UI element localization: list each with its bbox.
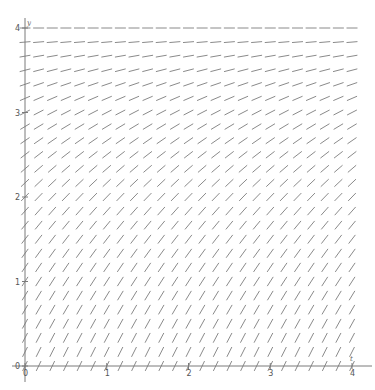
slope-segment [335,249,341,258]
slope-segment [34,96,44,100]
slope-segment [184,138,193,144]
slope-segment [61,83,71,87]
slope-segment [184,165,192,172]
slope-segment [101,69,112,72]
slope-segment [75,110,85,115]
slope-segment [117,263,123,272]
slope-segment [212,207,219,215]
slope-segment [131,249,137,258]
slope-segment [320,83,330,87]
slope-segment [348,179,356,187]
slope-segment [62,193,70,201]
slope-segment [104,291,110,300]
slope-segment [131,333,136,343]
slope-segment [104,263,110,272]
slope-segment [76,207,83,215]
slope-segment [306,69,317,72]
slope-segment [76,263,82,272]
slope-segment [200,333,205,343]
slope-segment [239,151,248,158]
slope-segment [349,235,356,244]
slope-segment [91,347,96,357]
slope-segment [77,305,83,315]
slope-segment [156,83,166,87]
slope-segment [172,291,178,300]
slope-segment [172,277,178,286]
slope-segment [198,193,206,201]
slope-segment [333,69,344,72]
slope-segment [91,333,96,343]
slope-segment [213,319,218,329]
slope-segment [349,263,355,272]
slope-segment [36,347,41,357]
slope-segment [102,110,112,115]
slope-segment [130,151,139,158]
slope-segment [157,124,166,130]
slope-segment [240,319,245,329]
slope-segment [142,83,152,87]
slope-segment [226,277,232,286]
slope-segment [281,347,286,357]
slope-segment [254,347,259,357]
slope-segment [267,291,273,300]
slope-segment [281,291,287,300]
x-tick-label: 1 [105,369,110,378]
slope-segment [104,305,110,315]
slope-segment [143,96,153,100]
slope-segment [224,96,234,100]
slope-segment [171,221,178,229]
slope-segment [115,69,126,72]
slope-segment [48,138,57,144]
slope-segment [103,165,111,172]
slope-segment [143,138,152,144]
slope-segment [89,193,97,201]
slope-segment [170,96,180,100]
slope-segment [171,151,180,158]
slope-segment [226,221,233,229]
slope-segment [103,207,110,215]
slope-segment [183,55,194,57]
slope-segment [199,221,206,229]
slope-segment [336,305,342,315]
slope-segment [199,319,204,329]
slope-segment [226,235,233,244]
slope-segment [158,305,164,315]
slope-segment [253,235,260,244]
slope-segment [321,207,328,215]
slope-segment [184,151,193,158]
slope-segment [199,305,205,315]
slope-segment [34,124,43,130]
slope-segment [227,319,232,329]
slope-segment [172,319,177,329]
slope-segment [36,277,42,286]
slope-segment [238,96,248,100]
slope-segment [349,305,355,315]
slope-segment [62,207,69,215]
slope-segment [211,151,220,158]
slope-segment [198,138,207,144]
slope-segment [186,333,191,343]
slope-segment [251,55,262,57]
slope-segment [267,277,273,286]
slope-segment [183,69,194,72]
slope-segment [157,138,166,144]
slope-segment [307,179,315,187]
slope-segment [278,42,289,43]
slope-segment [322,333,327,343]
slope-segment [118,333,123,343]
slope-segment [63,333,68,343]
slope-segment [131,291,137,300]
slope-segment [186,347,191,357]
slope-segment [156,110,166,115]
slope-segment [210,69,221,72]
slope-segment [210,55,221,57]
slope-segment [118,305,124,315]
slope-segment [197,69,208,72]
slope-segment [157,165,165,172]
slope-segment [266,193,274,201]
slope-segment [89,207,96,215]
slope-segment [185,221,192,229]
slope-segment [104,277,110,286]
slope-segment [35,207,42,215]
slope-segment [252,151,261,158]
